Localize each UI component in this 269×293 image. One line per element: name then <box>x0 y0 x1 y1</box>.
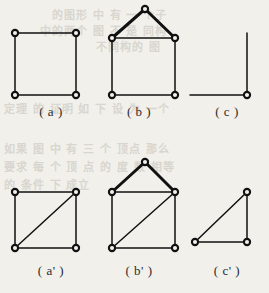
graph-vertex <box>109 245 115 251</box>
fig-b-prime-edges <box>112 162 175 248</box>
graph-vertex <box>244 92 250 98</box>
graph-vertex <box>172 35 178 41</box>
graph-edge <box>145 9 175 38</box>
graph-vertex <box>172 189 178 195</box>
graph-vertex <box>109 35 115 41</box>
vertices-layer <box>12 6 250 251</box>
graph-vertex <box>192 239 198 245</box>
graph-vertex <box>12 92 18 98</box>
graph-edge <box>112 162 145 192</box>
graph-edge <box>112 9 145 38</box>
graph-vertex <box>12 30 18 36</box>
fig-c-prime-edges <box>195 192 247 242</box>
graph-vertex <box>142 159 148 165</box>
fig-c-edges <box>190 33 247 95</box>
graph-edge <box>145 162 175 192</box>
fig-c-prime-caption: ( c' ) <box>192 263 262 279</box>
fig-a-prime-caption: ( a' ) <box>16 263 86 279</box>
graph-vertex <box>142 6 148 12</box>
fig-b-edges <box>112 9 175 95</box>
fig-a-edges <box>15 33 76 95</box>
fig-b-vertices <box>109 6 178 98</box>
graph-vertex <box>109 92 115 98</box>
fig-c-caption: ( c ) <box>192 104 262 120</box>
graph-edge <box>15 192 76 248</box>
graph-vertex <box>12 245 18 251</box>
graph-edge <box>195 192 247 242</box>
fig-b-prime-vertices <box>109 159 178 251</box>
edges-layer <box>15 9 247 248</box>
graph-vertex <box>73 30 79 36</box>
graph-vertex <box>73 245 79 251</box>
fig-a-prime-edges <box>15 192 76 248</box>
fig-b-prime-caption: ( b' ) <box>104 263 174 279</box>
graph-vertex <box>172 92 178 98</box>
fig-a-caption: ( a ) <box>16 104 86 120</box>
scanned-page: 的图形 中 有 一 个子中的两个 图 不 是 同构不同构的 图定理 的 证明 如… <box>0 0 269 293</box>
graph-edge <box>112 192 175 248</box>
graph-vertex <box>73 189 79 195</box>
graph-vertex <box>244 239 250 245</box>
graph-vertex <box>12 189 18 195</box>
graph-vertex <box>244 189 250 195</box>
graph-vertex <box>172 245 178 251</box>
graph-vertex <box>109 189 115 195</box>
fig-b-caption: ( b ) <box>104 104 174 120</box>
fig-a-vertices <box>12 30 79 98</box>
fig-c-vertices <box>244 92 250 98</box>
graph-vertex <box>73 92 79 98</box>
graph-figures <box>0 0 269 293</box>
